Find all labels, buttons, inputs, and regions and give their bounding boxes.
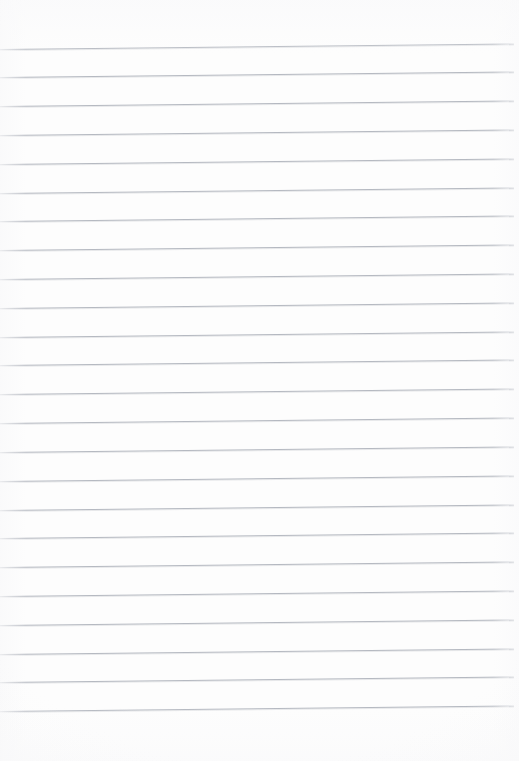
rule-line xyxy=(0,648,514,655)
rule-line xyxy=(0,446,514,453)
ruled-paper-sheet xyxy=(0,0,519,761)
rule-line xyxy=(0,562,514,569)
rule-line xyxy=(0,43,514,50)
rule-line xyxy=(0,389,514,396)
rule-line xyxy=(0,360,514,367)
rule-line xyxy=(0,216,514,223)
rule-line xyxy=(0,533,514,540)
rule-line xyxy=(0,331,514,338)
rule-line xyxy=(0,273,514,280)
rule-line xyxy=(0,590,514,597)
ruled-lines-group xyxy=(0,0,519,761)
rule-line xyxy=(0,418,514,425)
rule-line xyxy=(0,101,514,108)
rule-line xyxy=(0,619,514,626)
rule-line xyxy=(0,158,514,165)
rule-line xyxy=(0,72,514,79)
rule-line xyxy=(0,302,514,309)
rule-line xyxy=(0,129,514,136)
rule-line xyxy=(0,706,514,713)
rule-line xyxy=(0,245,514,252)
rule-line xyxy=(0,475,514,482)
rule-line xyxy=(0,677,514,684)
rule-line xyxy=(0,187,514,194)
rule-line xyxy=(0,504,514,511)
